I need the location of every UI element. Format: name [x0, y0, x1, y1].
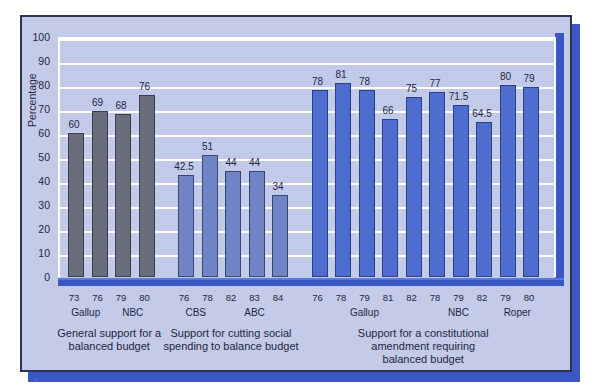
- pollster-label-abc: ABC: [215, 308, 295, 318]
- y-axis-tick-90: 90: [22, 56, 50, 67]
- bar-value-label: 71.5: [442, 92, 476, 102]
- bar-value-label: 68: [104, 101, 138, 111]
- pollster-label-roper: Roper: [477, 308, 557, 318]
- pollster-label-gallup: Gallup: [325, 308, 405, 318]
- y-axis-tick-40: 40: [22, 176, 50, 187]
- y-axis-tick-50: 50: [22, 152, 50, 163]
- chart-screenshot: Percentage 1009080706050403020100 606968…: [0, 0, 593, 392]
- bar: [225, 171, 241, 277]
- group-caption-2: Support for cutting socialspending to ba…: [141, 327, 321, 353]
- axis-bottom-highlight: [58, 278, 564, 280]
- bar: [115, 114, 131, 277]
- bar: [68, 133, 84, 277]
- axis-right-inner-line: [554, 37, 556, 277]
- bar: [359, 90, 375, 277]
- bar-value-label: 78: [348, 77, 382, 87]
- gridline-100: [60, 39, 555, 41]
- y-axis-tick-30: 30: [22, 200, 50, 211]
- bar: [312, 90, 328, 277]
- x-axis-year-label: 80: [128, 293, 162, 303]
- group-caption-line: spending to balance budget: [141, 340, 321, 353]
- bar: [500, 85, 516, 277]
- bar: [272, 195, 288, 277]
- axis-right: [555, 33, 564, 283]
- bar: [476, 122, 492, 277]
- group-caption-3: Support for a constitutionalamendment re…: [333, 327, 513, 366]
- bar: [335, 83, 351, 277]
- y-axis-tick-70: 70: [22, 104, 50, 115]
- bar-value-label: 66: [371, 106, 405, 116]
- y-axis-tick-80: 80: [22, 80, 50, 91]
- group-caption-line: Support for a constitutional: [333, 327, 513, 340]
- x-axis-year-label: 80: [512, 293, 546, 303]
- bar: [178, 175, 194, 277]
- plot-wrapper: 6069687642.55144443478817866757771.564.5…: [58, 37, 555, 277]
- bar: [523, 87, 539, 277]
- group-caption-line: amendment requiring: [333, 340, 513, 353]
- gridline-90: [60, 63, 555, 65]
- group-caption-line: balanced budget: [333, 353, 513, 366]
- bar-value-label: 79: [512, 74, 546, 84]
- bar: [92, 111, 108, 277]
- bar-value-label: 42.5: [167, 162, 201, 172]
- bar: [453, 105, 469, 277]
- y-axis-tick-10: 10: [22, 248, 50, 259]
- bar: [202, 155, 218, 277]
- group-caption-line: Support for cutting social: [141, 327, 321, 340]
- plot-area: [58, 37, 555, 277]
- bar-value-label: 64.5: [465, 109, 499, 119]
- y-axis-tick-20: 20: [22, 224, 50, 235]
- bar-value-label: 76: [128, 82, 162, 92]
- bar-value-label: 77: [418, 79, 452, 89]
- chart-card: Percentage 1009080706050403020100 606968…: [20, 15, 572, 372]
- bar: [429, 92, 445, 277]
- bar-value-label: 34: [261, 182, 295, 192]
- bar: [406, 97, 422, 277]
- bar-value-label: 51: [191, 142, 225, 152]
- x-axis-year-label: 84: [261, 293, 295, 303]
- bar-value-label: 44: [238, 158, 272, 168]
- y-axis-tick-100: 100: [22, 32, 50, 43]
- corner-marker: [34, 378, 37, 381]
- y-axis-tick-60: 60: [22, 128, 50, 139]
- bar: [139, 95, 155, 277]
- y-axis-tick-0: 0: [22, 272, 50, 283]
- bar: [382, 119, 398, 277]
- bar-value-label: 60: [57, 120, 91, 130]
